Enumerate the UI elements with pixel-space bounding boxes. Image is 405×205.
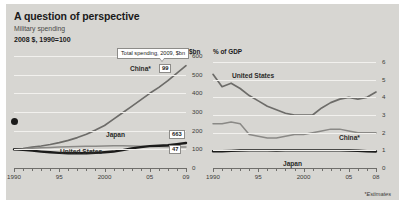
gridline <box>213 80 376 81</box>
x-tickmark <box>41 168 42 171</box>
x-tickmark <box>276 168 277 171</box>
chart-footnote: *Estimates <box>364 191 391 197</box>
x-tick-label: 95 <box>255 174 262 180</box>
x-tickmark <box>14 168 15 172</box>
y-tick-label: 0 <box>382 165 385 171</box>
x-tickmark <box>295 168 296 171</box>
x-tick-label: 05 <box>146 174 153 180</box>
x-tickmark <box>32 168 33 171</box>
y-tick-label: 500 <box>192 72 202 78</box>
y-tick-label: 600 <box>192 53 202 59</box>
x-tickmark <box>322 168 323 171</box>
x-tickmark <box>249 168 250 171</box>
x-tickmark <box>86 168 87 171</box>
y-tick-label: 3 <box>382 112 385 118</box>
right-series-label-japan: Japan <box>283 160 302 167</box>
x-tickmark <box>23 168 24 171</box>
left-series-label-china: China* <box>130 65 151 72</box>
left-chart-panel: $bn 0100200300400500600 19909520000509 C… <box>14 48 200 188</box>
x-tickmark <box>50 168 51 171</box>
origin-marker-dot <box>11 118 18 125</box>
left-x-axis-line <box>14 168 186 169</box>
x-tickmark <box>77 168 78 171</box>
gridline <box>14 75 186 76</box>
gridline <box>213 97 376 98</box>
y-tick-label: 1 <box>382 147 385 153</box>
x-tickmark <box>240 168 241 171</box>
y-tick-label: 200 <box>192 128 202 134</box>
x-tickmark <box>105 168 106 172</box>
chart-subtitle: Military spending <box>14 25 65 32</box>
x-tick-label: 2000 <box>98 174 112 180</box>
chart-units-label: 2008 $, 1990=100 <box>14 36 71 43</box>
right-series-label-us: United States <box>232 72 274 79</box>
y-tick-label: 100 <box>192 146 202 152</box>
x-tickmark <box>304 168 305 172</box>
y-tick-label: 5 <box>382 77 385 83</box>
chart-figure: A question of perspective Military spend… <box>6 4 399 200</box>
x-tick-label: 09 <box>183 174 190 180</box>
x-tickmark <box>59 168 60 172</box>
x-tickmark <box>231 168 232 171</box>
x-tickmark <box>68 168 69 171</box>
x-tickmark <box>168 168 169 171</box>
x-tickmark <box>222 168 223 171</box>
gridline <box>14 131 186 132</box>
x-tick-label: 05 <box>345 174 352 180</box>
x-tickmark <box>186 168 187 172</box>
y-tick-label: 0 <box>192 165 195 171</box>
x-tickmark <box>376 168 377 172</box>
x-tickmark <box>258 168 259 172</box>
right-series-label-china: China* <box>339 134 360 141</box>
x-tickmark <box>331 168 332 171</box>
x-tick-label: 2000 <box>297 174 311 180</box>
page-title: A question of perspective <box>14 10 139 22</box>
gridline <box>213 62 376 63</box>
x-tickmark <box>285 168 286 171</box>
gridline <box>213 150 376 151</box>
x-tickmark <box>267 168 268 171</box>
y-tick-label: 6 <box>382 59 385 65</box>
y-tick-label: 4 <box>382 94 385 100</box>
x-tickmark <box>313 168 314 171</box>
x-tickmark <box>213 168 214 172</box>
x-tickmark <box>123 168 124 171</box>
left-series-label-us: United States <box>60 148 102 155</box>
left-value-box-us: 663 <box>169 130 185 139</box>
left-value-box-japan: 47 <box>169 145 181 154</box>
gridline <box>14 112 186 113</box>
gridline <box>14 93 186 94</box>
y-tick-label: 300 <box>192 109 202 115</box>
callout-pointer <box>159 57 165 61</box>
x-tickmark <box>132 168 133 171</box>
series-line-china <box>14 66 186 150</box>
x-tickmark <box>349 168 350 172</box>
x-tick-label: 1990 <box>206 174 220 180</box>
left-value-box-china: 99 <box>159 64 171 73</box>
x-tickmark <box>367 168 368 171</box>
x-tickmark <box>159 168 160 171</box>
x-tick-label: 08 <box>373 174 380 180</box>
x-tickmark <box>340 168 341 171</box>
x-tickmark <box>95 168 96 171</box>
total-spending-callout: Total spending, 2009, $bn <box>117 48 189 59</box>
x-tickmark <box>177 168 178 171</box>
y-tick-label: 2 <box>382 130 385 136</box>
x-tickmark <box>358 168 359 171</box>
left-series-label-japan: Japan <box>106 131 125 138</box>
y-tick-label: 400 <box>192 90 202 96</box>
x-tickmark <box>141 168 142 171</box>
x-tick-label: 95 <box>56 174 63 180</box>
x-tick-label: 1990 <box>7 174 21 180</box>
gridline <box>213 115 376 116</box>
right-y-axis-label: % of GDP <box>213 48 242 55</box>
right-chart-panel: % of GDP 0123456 19909520000508 United S… <box>213 48 395 188</box>
x-tickmark <box>114 168 115 171</box>
x-tickmark <box>150 168 151 172</box>
